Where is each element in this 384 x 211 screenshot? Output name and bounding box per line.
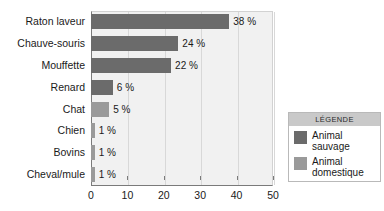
x-axis-tick-label: 50: [267, 190, 279, 201]
legend-label-domestic-line2: domestique: [312, 167, 364, 178]
x-axis-tick-label: 10: [122, 190, 134, 201]
value-label: 5 %: [113, 105, 130, 115]
legend-title: LÉGENDE: [289, 113, 380, 126]
bar-wild[interactable]: [91, 14, 229, 29]
legend-label-domestic: Animal domestique: [312, 156, 364, 178]
bar-row: Mouffette22 %: [0, 55, 384, 77]
value-label: 1 %: [99, 148, 116, 158]
legend-label-domestic-line1: Animal: [312, 156, 364, 167]
legend-box: LÉGENDE Animal sauvage Animal domestique: [288, 112, 381, 182]
legend-label-wild-line2: sauvage: [312, 141, 350, 152]
x-axis-tick-label: 40: [231, 190, 243, 201]
legend-item-animal-sauvage[interactable]: Animal sauvage: [289, 126, 380, 152]
bar-row: Raton laveur38 %: [0, 11, 384, 33]
value-label: 6 %: [117, 83, 134, 93]
value-label: 1 %: [99, 170, 116, 180]
bar-domestic[interactable]: [91, 102, 109, 117]
category-label: Chauve-souris: [17, 38, 85, 49]
category-label: Mouffette: [41, 60, 85, 71]
x-axis-tick-label: 20: [158, 190, 170, 201]
value-label: 22 %: [175, 61, 198, 71]
legend-item-animal-domestique[interactable]: Animal domestique: [289, 152, 380, 178]
category-label: Raton laveur: [25, 16, 85, 27]
bar-domestic[interactable]: [91, 145, 95, 160]
bar-chart-figure: 01020304050Raton laveur38 %Chauve-souris…: [0, 0, 384, 211]
legend-label-wild-line1: Animal: [312, 130, 350, 141]
bar-wild[interactable]: [91, 36, 178, 51]
x-axis-tick-label: 0: [88, 190, 94, 201]
bar-row: Chauve-souris24 %: [0, 33, 384, 55]
bar-domestic[interactable]: [91, 167, 95, 182]
x-axis-tick-label: 30: [194, 190, 206, 201]
category-label: Bovins: [53, 147, 85, 158]
category-label: Cheval/mule: [27, 169, 85, 180]
bar-domestic[interactable]: [91, 123, 95, 138]
value-label: 1 %: [99, 126, 116, 136]
legend-label-wild: Animal sauvage: [312, 130, 350, 152]
legend-swatch-wild-icon: [294, 131, 307, 144]
bar-wild[interactable]: [91, 80, 113, 95]
value-label: 24 %: [182, 39, 205, 49]
category-label: Chien: [58, 125, 85, 136]
category-label: Renard: [51, 82, 85, 93]
bar-row: Renard6 %: [0, 77, 384, 99]
category-label: Chat: [63, 104, 85, 115]
bar-wild[interactable]: [91, 58, 171, 73]
value-label: 38 %: [233, 17, 256, 27]
legend-swatch-domestic-icon: [294, 157, 307, 170]
